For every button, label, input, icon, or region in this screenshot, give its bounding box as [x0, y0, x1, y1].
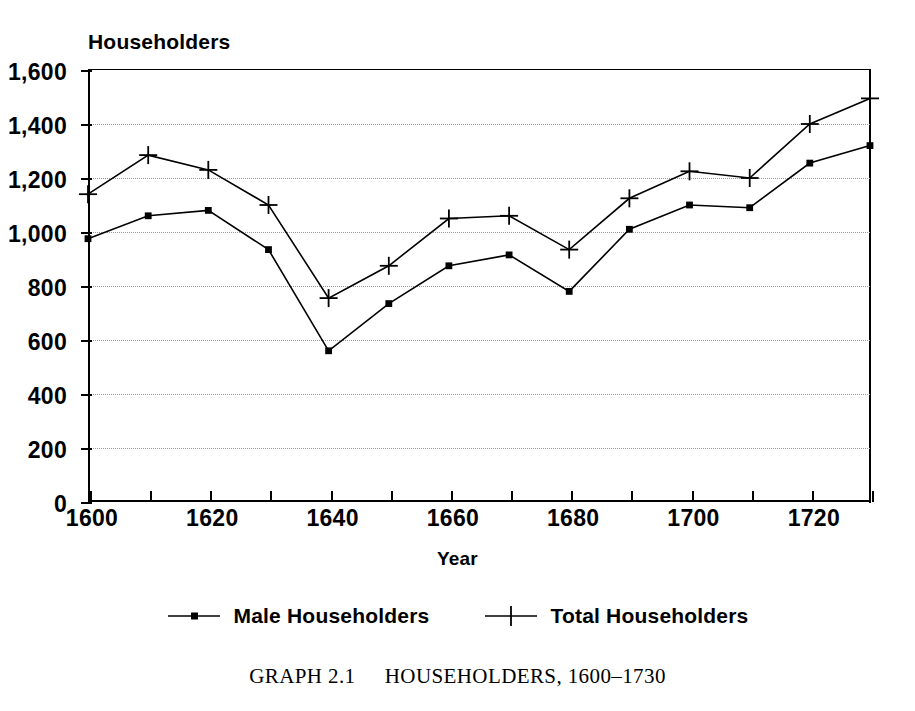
- legend-label-male: Male Householders: [233, 604, 429, 628]
- y-tick-label: 1,400: [8, 113, 67, 140]
- graph-figure: Householders 02004006008001,0001,2001,40…: [0, 0, 915, 711]
- x-tick: [391, 491, 393, 502]
- gridline: [90, 232, 870, 233]
- y-tick: 600: [81, 340, 92, 342]
- y-tick: 1,000: [81, 232, 92, 234]
- x-tick: [752, 491, 754, 502]
- y-tick-label: 1,600: [8, 59, 67, 86]
- x-tick: 1600: [90, 491, 92, 502]
- x-tick: [270, 491, 272, 502]
- caption-title: HOUSEHOLDERS, 1600–1730: [385, 664, 666, 688]
- legend-marker-dot-icon: [166, 606, 222, 626]
- y-tick-label: 400: [28, 383, 67, 410]
- y-tick: 400: [81, 394, 92, 396]
- x-tick: [631, 491, 633, 502]
- legend: Male Householders Total Householders: [0, 604, 915, 628]
- x-tick-label: 1640: [306, 505, 358, 532]
- x-tick: [872, 491, 874, 502]
- y-tick-label: 200: [28, 437, 67, 464]
- legend-marker-plus-icon: [483, 604, 539, 628]
- y-tick-label: 1,200: [8, 167, 67, 194]
- x-tick: 1720: [812, 491, 814, 502]
- y-tick: 800: [81, 286, 92, 288]
- y-tick: 1,600: [81, 70, 92, 72]
- caption-number: GRAPH 2.1: [249, 664, 355, 688]
- y-tick-label: 1,000: [8, 221, 67, 248]
- x-tick-label: 1620: [186, 505, 238, 532]
- x-tick-label: 1700: [667, 505, 719, 532]
- gridline: [90, 286, 870, 287]
- plot-area: 02004006008001,0001,2001,4001,600 160016…: [88, 70, 870, 502]
- x-tick-label: 1720: [788, 505, 840, 532]
- legend-item-total: Total Householders: [483, 604, 748, 628]
- x-tick-label: 1600: [66, 505, 118, 532]
- gridline: [90, 178, 870, 179]
- x-tick-label: 1680: [547, 505, 599, 532]
- x-tick: 1660: [451, 491, 453, 502]
- x-tick: 1700: [692, 491, 694, 502]
- y-tick: 1,200: [81, 178, 92, 180]
- y-tick: 200: [81, 448, 92, 450]
- gridline: [90, 340, 870, 341]
- x-tick: 1640: [331, 491, 333, 502]
- gridline: [90, 124, 870, 125]
- legend-label-total: Total Householders: [550, 604, 748, 628]
- y-tick: 1,400: [81, 124, 92, 126]
- x-tick: [511, 491, 513, 502]
- figure-caption: GRAPH 2.1 HOUSEHOLDERS, 1600–1730: [0, 664, 915, 689]
- legend-item-male: Male Householders: [166, 604, 429, 628]
- x-tick: 1620: [210, 491, 212, 502]
- y-axis-title: Householders: [88, 30, 230, 54]
- y-tick-label: 600: [28, 329, 67, 356]
- x-axis-title: Year: [0, 548, 915, 570]
- x-tick: [150, 491, 152, 502]
- x-tick-label: 1660: [427, 505, 479, 532]
- gridline: [90, 448, 870, 449]
- y-tick-label: 800: [28, 275, 67, 302]
- gridline: [90, 394, 870, 395]
- x-tick: 1680: [571, 491, 573, 502]
- y-tick: 0: [81, 502, 92, 504]
